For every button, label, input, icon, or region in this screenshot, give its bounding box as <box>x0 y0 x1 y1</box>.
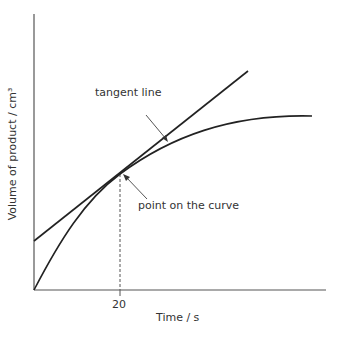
tangent-annotation: tangent line <box>95 86 161 99</box>
x-axis-label: Time / s <box>156 311 199 324</box>
x-tick-label: 20 <box>112 298 126 311</box>
tangent-arrow <box>146 115 166 139</box>
point-annotation: point on the curve <box>138 199 239 212</box>
diagram-canvas <box>0 0 337 339</box>
point-arrow <box>126 177 147 199</box>
y-axis-label: Volume of product / cm³ <box>6 88 19 221</box>
